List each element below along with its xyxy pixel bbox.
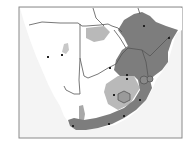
lesotho-outline xyxy=(118,91,130,103)
distribution-map xyxy=(0,0,189,152)
swaziland-outline-2 xyxy=(147,76,153,82)
map-svg xyxy=(0,0,189,152)
